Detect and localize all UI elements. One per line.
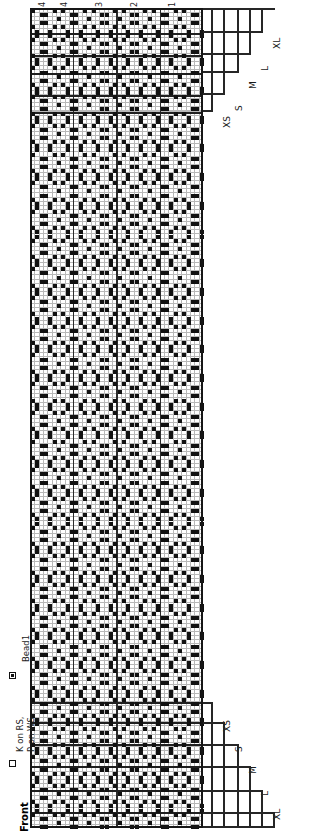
bead-cell xyxy=(118,534,122,538)
bead-cell xyxy=(61,239,65,243)
bead-cell xyxy=(152,210,156,214)
bead-cell xyxy=(35,120,39,124)
bead-cell xyxy=(113,698,117,702)
bead-cell xyxy=(187,206,191,210)
bracket-arm xyxy=(203,722,225,724)
bead-cell xyxy=(122,9,126,13)
bead-cell xyxy=(118,620,122,624)
bead-cell xyxy=(122,669,126,673)
bead-cell xyxy=(122,497,126,501)
bead-cell xyxy=(83,353,87,357)
bead-cell xyxy=(126,321,130,325)
bead-cell xyxy=(53,628,57,632)
bead-cell xyxy=(135,444,139,448)
bead-cell xyxy=(135,558,139,562)
bead-cell xyxy=(135,185,139,189)
bead-cell xyxy=(187,809,191,813)
bead-cell xyxy=(195,79,199,83)
bead-cell xyxy=(113,124,117,128)
bead-cell xyxy=(53,554,57,558)
bead-cell xyxy=(53,312,57,316)
bead-cell xyxy=(87,17,91,21)
bead-cell xyxy=(105,481,109,485)
bead-cell xyxy=(92,727,96,731)
bead-cell xyxy=(44,681,48,685)
bead-cell xyxy=(74,452,78,456)
bead-cell xyxy=(87,304,91,308)
bead-cell xyxy=(83,640,87,644)
bead-cell xyxy=(148,534,152,538)
bead-cell xyxy=(53,325,57,329)
bead-cell xyxy=(195,501,199,505)
bead-cell xyxy=(83,66,87,70)
bead-cell xyxy=(126,464,130,468)
bead-cell xyxy=(44,42,48,46)
bead-cell xyxy=(135,136,139,140)
bead-cell xyxy=(57,276,61,280)
bead-cell xyxy=(31,698,35,702)
bead-cell xyxy=(61,755,65,759)
bead-cell xyxy=(31,583,35,587)
bead-cell xyxy=(165,243,169,247)
bead-cell xyxy=(66,148,70,152)
bead-cell xyxy=(143,284,147,288)
size-section-divider xyxy=(30,73,203,75)
bead-cell xyxy=(105,214,109,218)
bead-cell xyxy=(152,153,156,157)
bead-cell xyxy=(118,362,122,366)
bead-cell xyxy=(200,349,204,353)
bead-cell xyxy=(178,476,182,480)
bead-cell xyxy=(126,235,130,239)
bead-cell xyxy=(165,99,169,103)
bead-cell xyxy=(156,235,160,239)
bead-cell xyxy=(105,624,109,628)
bead-cell xyxy=(105,358,109,362)
bead-cell xyxy=(66,62,70,66)
bead-cell xyxy=(87,103,91,107)
bead-cell xyxy=(126,751,130,755)
bead-cell xyxy=(113,38,117,42)
bead-cell xyxy=(165,50,169,54)
bead-cell xyxy=(57,505,61,509)
bead-cell xyxy=(53,226,57,230)
bead-cell xyxy=(152,554,156,558)
bead-cell xyxy=(135,538,139,542)
bead-cell xyxy=(57,476,61,480)
bead-cell xyxy=(165,702,169,706)
bead-cell xyxy=(61,727,65,731)
bead-cell xyxy=(165,423,169,427)
bead-cell xyxy=(122,468,126,472)
bead-cell xyxy=(182,411,186,415)
bead-cell xyxy=(113,800,117,804)
bead-cell xyxy=(187,148,191,152)
bead-cell xyxy=(118,390,122,394)
bead-cell xyxy=(74,681,78,685)
bead-cell xyxy=(126,263,130,267)
bead-cell xyxy=(92,9,96,13)
bead-cell xyxy=(31,124,35,128)
bead-cell xyxy=(165,759,169,763)
bead-cell xyxy=(195,444,199,448)
bead-cell xyxy=(200,694,204,698)
bead-cell xyxy=(74,337,78,341)
bead-cell xyxy=(105,452,109,456)
bead-cell xyxy=(126,550,130,554)
bead-cell xyxy=(174,38,178,42)
size-bracket xyxy=(203,8,275,10)
bead-cell xyxy=(187,464,191,468)
bead-cell xyxy=(165,358,169,362)
bead-cell xyxy=(178,591,182,595)
bead-cell xyxy=(96,751,100,755)
bead-cell xyxy=(87,448,91,452)
bead-cell xyxy=(44,423,48,427)
bead-cell xyxy=(113,353,117,357)
bead-cell xyxy=(87,706,91,710)
bead-cell xyxy=(195,337,199,341)
bead-cell xyxy=(105,222,109,226)
bead-cell xyxy=(182,296,186,300)
bead-cell xyxy=(143,25,147,29)
bead-cell xyxy=(152,755,156,759)
bead-cell xyxy=(122,813,126,817)
bead-cell xyxy=(135,128,139,132)
bead-cell xyxy=(174,599,178,603)
